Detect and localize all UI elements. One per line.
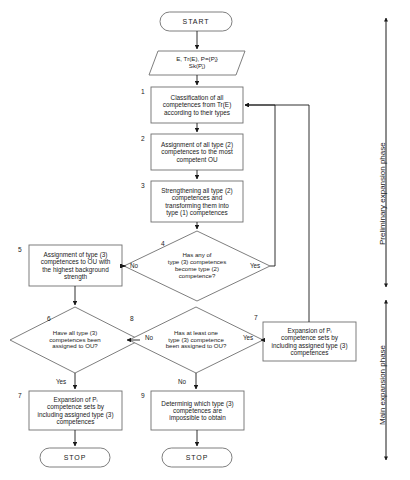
step3-node: Strengthening all type (2) competences a… bbox=[151, 181, 243, 222]
step7left-number: 7 bbox=[18, 392, 22, 399]
step5-number: 5 bbox=[18, 246, 22, 253]
step7right-label: Expansion of Pᵢ competence sets by inclu… bbox=[266, 327, 353, 356]
step6-node: Have all type (3) competences been assig… bbox=[18, 325, 132, 355]
step7left-node: Expansion of Pᵢ competence sets by inclu… bbox=[29, 391, 122, 430]
connector-step4Yes-step1 bbox=[245, 105, 275, 266]
step3-number: 3 bbox=[141, 182, 145, 189]
step7left-label: Expansion of Pᵢ competence sets by inclu… bbox=[32, 396, 119, 425]
step4-label: Has any of type (3) competences become t… bbox=[143, 252, 251, 279]
step6-label: Have all type (3) competences been assig… bbox=[28, 330, 122, 350]
step9-number: 9 bbox=[141, 392, 145, 399]
start-terminal-label: START bbox=[160, 18, 232, 26]
step1-label: Classification of all competences from T… bbox=[154, 94, 240, 116]
input-node-label: E, Tr(E), P={Pⱼ} Sk(Pⱼ) bbox=[152, 56, 242, 70]
step8-yes-label: Yes bbox=[243, 334, 253, 341]
step9-label: Determinig which type (3) competences ar… bbox=[154, 400, 241, 422]
stop-left-label: STOP bbox=[40, 454, 110, 462]
step1-number: 1 bbox=[141, 88, 145, 95]
step2-node: Assignment of all type (2) competences t… bbox=[151, 134, 243, 170]
step8-no-label: No bbox=[178, 378, 186, 385]
connector-step7right-step1 bbox=[245, 105, 309, 322]
step6-yes-label: Yes bbox=[56, 378, 66, 385]
step7right-number: 7 bbox=[254, 314, 258, 321]
step5-label: Assignment of type (3) competences to OU… bbox=[32, 251, 119, 280]
step8-node: Has at least one type (3) competence bee… bbox=[139, 325, 253, 355]
step4-yes-label: Yes bbox=[250, 262, 260, 269]
step8-label: Has at least one type (3) competence bee… bbox=[149, 330, 243, 350]
step4-node: Has any of type (3) competences become t… bbox=[133, 245, 261, 287]
step5-node: Assignment of type (3) competences to OU… bbox=[29, 245, 122, 286]
flowchart-page: START E, Tr(E), P={Pⱼ} Sk(Pⱼ) 1 Classifi… bbox=[0, 0, 410, 480]
step3-label: Strengthening all type (2) competences a… bbox=[154, 187, 240, 216]
step2-number: 2 bbox=[141, 135, 145, 142]
step2-label: Assignment of all type (2) competences t… bbox=[154, 141, 240, 163]
main-phase-label: Main expansion phase bbox=[378, 345, 387, 425]
step9-node: Determinig which type (3) competences ar… bbox=[151, 391, 244, 430]
connector-step4-no bbox=[122, 266, 124, 267]
start-terminal: START bbox=[160, 12, 232, 31]
stop-left-terminal: STOP bbox=[40, 448, 110, 467]
stop-right-terminal: STOP bbox=[162, 448, 232, 467]
preliminary-phase-label: Preliminary expansion phase bbox=[378, 142, 387, 245]
input-node: E, Tr(E), P={Pⱼ} Sk(Pⱼ) bbox=[152, 51, 242, 75]
step1-node: Classification of all competences from T… bbox=[151, 87, 243, 123]
step4-no-label: No bbox=[130, 262, 138, 269]
step7right-node: Expansion of Pᵢ competence sets by inclu… bbox=[263, 322, 356, 361]
step6-number: 6 bbox=[47, 315, 51, 322]
stop-right-label: STOP bbox=[162, 454, 232, 462]
step8-number: 8 bbox=[130, 315, 134, 322]
